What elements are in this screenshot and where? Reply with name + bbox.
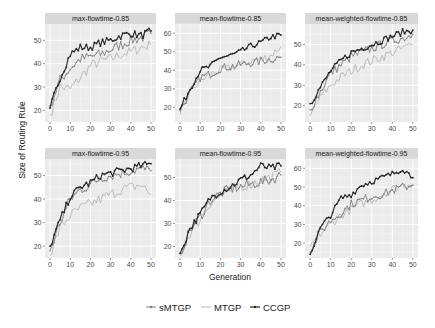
facet-title: max-flowtime-0.85	[72, 15, 129, 22]
y-axis-title: Size of Routing Rule	[17, 101, 27, 179]
y-tick-label: 40	[34, 196, 42, 203]
facet-title: mean-weighted-flowtime-0.85	[316, 15, 408, 23]
legend-item-smtgp: sMTGP	[146, 302, 191, 313]
x-tick-label: 10	[196, 261, 204, 268]
x-tick-label: 20	[347, 125, 355, 132]
y-tick-label: 50	[294, 41, 302, 48]
y-tick-label: 40	[294, 61, 302, 68]
x-axis-title: Generation	[209, 272, 251, 282]
facet-panel: mean-flowtime-0.85203040506001020304050	[164, 13, 286, 132]
y-tick-label: 40	[34, 60, 42, 67]
x-tick-label: 50	[277, 261, 285, 268]
y-tick-label: 30	[34, 219, 42, 226]
y-tick-label: 40	[164, 197, 172, 204]
chart-canvas: max-flowtime-0.852030405001020304050mean…	[0, 0, 435, 328]
x-tick-label: 50	[277, 125, 285, 132]
y-tick-label: 50	[164, 48, 172, 55]
x-tick-label: 0	[178, 125, 182, 132]
x-tick-label: 30	[107, 125, 115, 132]
y-tick-label: 40	[294, 202, 302, 209]
y-tick-label: 50	[34, 172, 42, 179]
y-tick-label: 30	[164, 220, 172, 227]
y-tick-label: 20	[34, 107, 42, 114]
legend-item-mtgp: MTGP	[201, 302, 241, 313]
x-tick-label: 30	[368, 261, 376, 268]
facet-panel: max-flowtime-0.952030405001020304050	[34, 148, 156, 268]
x-tick-label: 20	[217, 125, 225, 132]
x-tick-label: 0	[308, 125, 312, 132]
x-tick-label: 30	[107, 261, 115, 268]
x-tick-label: 40	[388, 125, 396, 132]
x-tick-label: 40	[127, 125, 135, 132]
legend: sMTGPMTGPCCGP	[146, 302, 290, 313]
legend-item-ccgp: CCGP	[250, 302, 290, 313]
facet-title: mean-flowtime-0.85	[200, 15, 262, 22]
x-tick-label: 50	[147, 261, 155, 268]
x-tick-label: 10	[327, 125, 335, 132]
x-tick-label: 20	[217, 261, 225, 268]
x-tick-label: 50	[409, 125, 417, 132]
y-tick-label: 40	[164, 67, 172, 74]
facet-panel: max-flowtime-0.852030405001020304050	[34, 13, 156, 132]
x-tick-label: 30	[237, 261, 245, 268]
facet-panel: mean-flowtime-0.952030405001020304050	[164, 148, 286, 268]
y-tick-label: 30	[164, 85, 172, 92]
y-tick-label: 50	[34, 37, 42, 44]
y-tick-label: 20	[34, 243, 42, 250]
facet-title: mean-flowtime-0.95	[200, 150, 262, 157]
x-tick-label: 0	[308, 261, 312, 268]
y-tick-label: 60	[164, 30, 172, 37]
y-tick-label: 50	[294, 184, 302, 191]
x-tick-label: 40	[257, 125, 265, 132]
y-tick-label: 20	[164, 243, 172, 250]
facet-panel: mean-weighted-flowtime-0.852030405001020…	[294, 13, 418, 132]
faceted-line-chart: max-flowtime-0.852030405001020304050mean…	[0, 0, 435, 328]
legend-label: CCGP	[263, 302, 290, 313]
x-tick-label: 10	[66, 261, 74, 268]
x-tick-label: 10	[196, 125, 204, 132]
x-tick-label: 20	[87, 125, 95, 132]
x-tick-label: 20	[87, 261, 95, 268]
y-tick-label: 20	[164, 104, 172, 111]
facet-title: mean-weighted-flowtime-0.95	[316, 150, 408, 158]
x-tick-label: 0	[48, 261, 52, 268]
y-tick-label: 20	[294, 102, 302, 109]
x-tick-label: 10	[327, 261, 335, 268]
x-tick-label: 0	[178, 261, 182, 268]
facet-title: max-flowtime-0.95	[72, 150, 129, 157]
y-tick-label: 60	[294, 165, 302, 172]
y-tick-label: 50	[164, 174, 172, 181]
x-tick-label: 40	[388, 261, 396, 268]
x-tick-label: 50	[409, 261, 417, 268]
x-tick-label: 30	[237, 125, 245, 132]
x-tick-label: 40	[257, 261, 265, 268]
y-tick-label: 30	[294, 82, 302, 89]
legend-label: MTGP	[214, 302, 241, 313]
x-tick-label: 50	[147, 125, 155, 132]
x-tick-label: 0	[48, 125, 52, 132]
facet-panel: mean-weighted-flowtime-0.952030405060010…	[294, 148, 418, 268]
x-tick-label: 40	[127, 261, 135, 268]
y-tick-label: 20	[294, 240, 302, 247]
x-tick-label: 30	[368, 125, 376, 132]
x-tick-label: 10	[66, 125, 74, 132]
y-tick-label: 30	[34, 84, 42, 91]
x-tick-label: 20	[347, 261, 355, 268]
legend-label: sMTGP	[159, 302, 191, 313]
y-tick-label: 30	[294, 221, 302, 228]
